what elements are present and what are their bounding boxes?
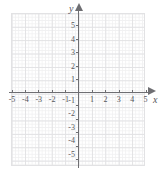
x-tickmark xyxy=(105,90,106,93)
x-tickmark xyxy=(146,90,147,93)
y-tick-label: -5 xyxy=(62,151,75,159)
x-tickmark xyxy=(38,90,39,93)
y-tick-label: 4 xyxy=(62,36,75,44)
x-tickmark xyxy=(25,90,26,93)
x-tickmark xyxy=(92,90,93,93)
x-tickmark xyxy=(12,90,13,93)
y-tickmark xyxy=(76,119,79,120)
x-tickmark xyxy=(52,90,53,93)
x-tick-label: -5 xyxy=(6,96,19,104)
y-tickmark xyxy=(76,146,79,147)
y-tick-label: -4 xyxy=(62,137,75,145)
y-tickmark xyxy=(76,52,79,53)
x-tick-label: -2 xyxy=(46,96,59,104)
x-tick-label: 2 xyxy=(99,96,112,104)
y-tickmark xyxy=(76,66,79,67)
x-tick-label: -4 xyxy=(19,96,32,104)
y-axis-label: y xyxy=(69,4,73,14)
x-tick-label: 3 xyxy=(112,96,125,104)
x-tick-label: 1 xyxy=(86,96,99,104)
x-axis-line xyxy=(9,92,152,93)
x-tick-label: -3 xyxy=(32,96,45,104)
y-tick-label: 5 xyxy=(62,22,75,30)
y-tickmark xyxy=(76,159,79,160)
y-tickmark xyxy=(76,79,79,80)
coordinate-plane-graph: x y -5 -4 -3 -2 -1 1 2 3 4 5 5 4 3 2 1 -… xyxy=(0,0,164,174)
y-tick-label: 1 xyxy=(62,76,75,84)
y-tick-label: -1 xyxy=(62,97,75,105)
y-tick-label: 2 xyxy=(62,63,75,71)
y-tick-label: 3 xyxy=(62,49,75,57)
y-tickmark xyxy=(76,39,79,40)
y-tickmark xyxy=(76,25,79,26)
x-axis-label: x xyxy=(153,95,157,105)
y-tickmark xyxy=(76,105,79,106)
y-tickmark xyxy=(76,132,79,133)
x-tickmark xyxy=(119,90,120,93)
y-tick-label: -2 xyxy=(62,110,75,118)
x-tickmark xyxy=(65,90,66,93)
x-tick-label: 5 xyxy=(139,96,152,104)
y-tick-label: -3 xyxy=(62,124,75,132)
y-axis-line xyxy=(78,8,79,168)
y-axis-arrow-icon xyxy=(75,3,83,11)
x-tick-label: 4 xyxy=(126,96,139,104)
x-tickmark xyxy=(132,90,133,93)
